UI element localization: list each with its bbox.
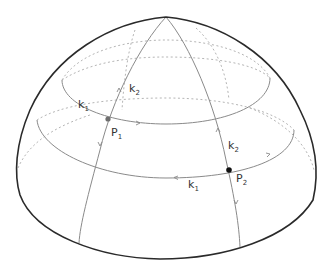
meridian-right: [166, 17, 240, 247]
label-sub: 1: [194, 185, 198, 193]
dome-outline: [17, 17, 317, 259]
upper-latitude-front: [62, 78, 270, 124]
back-meridian-left: [122, 30, 135, 110]
upper-latitude-back-2: [62, 57, 270, 80]
arrow-icon: [216, 128, 220, 132]
point-p1: [105, 116, 110, 121]
outer-latitude-back-left: [18, 115, 90, 168]
hidden-curves: [18, 28, 314, 170]
label-k2-upper: k2: [129, 82, 140, 97]
point-p2: [226, 167, 232, 173]
meridian-left: [79, 17, 166, 243]
label-p1: P1: [111, 126, 122, 141]
label-sub: 1: [84, 105, 88, 113]
back-meridian-right: [196, 28, 229, 100]
arrow-icon: [266, 153, 270, 157]
label-sub: 2: [135, 89, 139, 97]
arrow-icon: [117, 88, 121, 92]
lower-latitude-front: [37, 120, 294, 178]
label-sub: 2: [243, 179, 247, 187]
label-k2-lower: k2: [228, 139, 239, 154]
upper-latitude-back: [62, 40, 270, 80]
hemisphere-diagram: k1 k2 P1 k2 P2 k1: [0, 0, 334, 270]
outer-latitude-back-right: [250, 108, 314, 170]
label-k1-lower: k1: [188, 178, 199, 193]
label-sub: 1: [118, 133, 122, 141]
label-p2: P2: [236, 172, 247, 187]
label-k1-upper: k1: [78, 98, 89, 113]
label-sub: 2: [234, 146, 238, 154]
arrow-icon: [136, 121, 140, 125]
